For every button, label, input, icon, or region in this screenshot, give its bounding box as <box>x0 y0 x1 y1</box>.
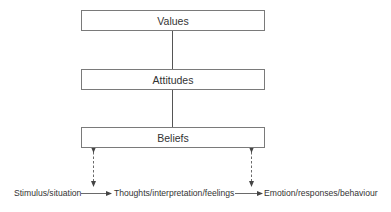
connector-layer <box>0 0 391 212</box>
values-label: Values <box>157 15 188 27</box>
thoughts-label: Thoughts/interpretation/feelings <box>114 188 234 198</box>
beliefs-label: Beliefs <box>157 132 189 144</box>
emotion-label: Emotion/responses/behaviour <box>264 188 378 198</box>
values-box: Values <box>81 10 265 31</box>
attitudes-label: Attitudes <box>153 74 194 86</box>
beliefs-box: Beliefs <box>81 127 265 148</box>
attitudes-box: Attitudes <box>81 69 265 90</box>
stimulus-label: Stimulus/situation <box>14 188 81 198</box>
